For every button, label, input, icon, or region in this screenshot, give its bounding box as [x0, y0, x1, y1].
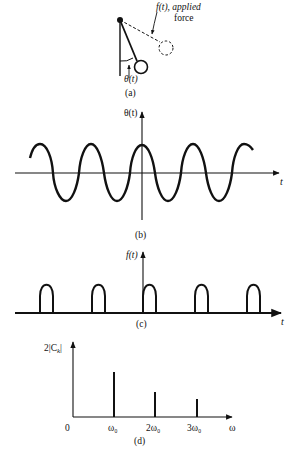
- force-pulse-2: [92, 285, 105, 313]
- force-pointer-curve: [152, 12, 157, 34]
- panel-b-angle-plot: θ(t) t (b): [15, 108, 283, 241]
- c-y-label: f(t): [126, 250, 138, 261]
- pivot-point: [117, 17, 123, 23]
- d-origin-label: 0: [65, 423, 70, 433]
- pendulum-bob: [135, 61, 148, 74]
- caption-a: (a): [125, 88, 136, 99]
- caption-b: (b): [135, 230, 146, 241]
- d-y-label: 2|Ck|: [44, 343, 62, 355]
- b-x-label: t: [280, 176, 283, 187]
- displaced-bob-dashed: [159, 41, 173, 55]
- d-tick-label-3: 3ω₀: [187, 423, 201, 433]
- force-pulse-4: [195, 285, 208, 313]
- panel-c-force-plot: f(t) t (c): [15, 250, 284, 330]
- caption-c: (c): [136, 319, 147, 330]
- pendulum-rod: [120, 20, 137, 61]
- caption-d: (d): [134, 436, 145, 447]
- svg-text:f(t), applied: f(t), applied: [156, 2, 201, 13]
- force-pulse-1: [40, 285, 53, 313]
- d-tick-label-1: ω₀: [108, 423, 118, 433]
- angle-arc: [120, 58, 133, 61]
- figure-canvas: f(t), applied force θ(t) (a) θ(t) t (b) …: [0, 0, 300, 452]
- angle-label: θ(t): [124, 74, 138, 85]
- force-label: f(t), applied: [156, 2, 201, 13]
- d-x-label: ω: [229, 422, 236, 433]
- panel-d-spectrum: 2|Ck| 0 ω₀ 2ω₀ 3ω₀ ω (d): [44, 342, 236, 447]
- force-label-line2: force: [174, 13, 194, 23]
- c-x-label: t: [281, 316, 284, 327]
- panel-a-pendulum: f(t), applied force θ(t) (a): [117, 2, 201, 99]
- force-pulse-5: [247, 285, 260, 313]
- force-pulse-3: [143, 285, 156, 313]
- d-tick-label-2: 2ω₀: [146, 423, 160, 433]
- b-y-label: θ(t): [124, 108, 138, 119]
